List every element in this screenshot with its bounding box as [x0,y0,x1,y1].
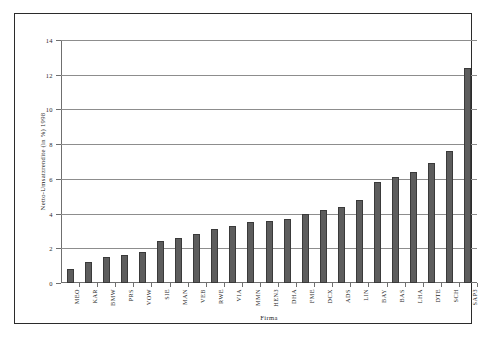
x-tick-mark [350,283,351,287]
chart-frame: Netto-Umsatzrendite (in %) 1998 02468101… [14,13,472,324]
bar [284,219,291,283]
bar [211,229,218,283]
gridline [61,75,477,76]
bar [320,210,327,283]
x-tick-mark [170,283,171,287]
bar [121,255,128,283]
x-tick-label: MAN [181,289,188,305]
x-tick-label: MMN [254,289,261,306]
x-tick-label: VEB [199,289,206,303]
x-tick-label: BAS [398,289,405,303]
y-tick-mark [56,144,61,145]
y-tick-label: 12 [46,71,53,78]
x-tick-mark [314,283,315,287]
plot-area: 02468101214 MEOKARBMWPRSVOWSIEMANVEBRWEV… [61,40,477,283]
bar [103,257,110,283]
bar [266,221,273,283]
y-tick-mark [56,40,61,41]
x-tick-label: KAR [91,289,98,304]
plot-inner: 02468101214 MEOKARBMWPRSVOWSIEMANVEBRWEV… [61,40,477,283]
x-tick-mark [387,283,388,287]
y-tick-label: 6 [49,175,53,182]
gridline [61,109,477,110]
x-tick-label: FME [308,289,315,303]
bar [67,269,74,283]
x-tick-label: DTE [434,289,441,303]
x-tick-label: HEN3 [272,289,279,307]
x-tick-mark [423,283,424,287]
bar [374,182,381,283]
bar [139,252,146,283]
bar [392,177,399,283]
x-tick-mark [405,283,406,287]
x-tick-mark [368,283,369,287]
y-axis-line [61,40,62,283]
x-axis-title: Firma [61,314,477,321]
x-tick-mark [278,283,279,287]
x-tick-mark [79,283,80,287]
y-tick-label: 4 [49,210,53,217]
x-tick-label: VOW [145,289,152,305]
x-tick-label: LIN [362,289,369,301]
x-tick-label: VIA [235,289,242,302]
bar [446,151,453,283]
gridline [61,144,477,145]
bar [464,68,471,283]
bar [247,222,254,283]
bar [85,262,92,283]
x-tick-label: SAP3 [471,289,478,305]
bar [175,238,182,283]
x-tick-mark [224,283,225,287]
y-tick-label: 0 [49,280,53,287]
bar [428,163,435,283]
x-tick-mark [97,283,98,287]
x-tick-label: RWE [217,289,224,304]
y-tick-mark [56,214,61,215]
bar [157,241,164,283]
x-tick-mark [151,283,152,287]
x-tick-label: DHA [290,289,297,304]
bar [229,226,236,283]
chart-figure: Netto-Umsatzrendite (in %) 1998 02468101… [0,0,488,340]
y-tick-label: 14 [46,37,53,44]
y-tick-label: 10 [46,106,53,113]
bar [193,234,200,283]
x-tick-mark [242,283,243,287]
y-tick-mark [56,109,61,110]
x-tick-mark [296,283,297,287]
y-tick-mark [56,75,61,76]
x-tick-label: BAY [380,289,387,303]
x-tick-mark [188,283,189,287]
bar [356,200,363,283]
x-tick-mark [133,283,134,287]
x-tick-mark [441,283,442,287]
bar [338,207,345,283]
x-tick-label: MEO [73,289,80,304]
x-tick-label: SIE [163,289,170,300]
x-tick-mark [206,283,207,287]
bar [302,214,309,283]
y-axis-title-text: Netto-Umsatzrendite (in %) 1998 [40,113,47,211]
y-tick-label: 2 [49,245,53,252]
bar [410,172,417,283]
y-tick-mark [56,248,61,249]
x-tick-mark [477,283,478,287]
y-tick-label: 8 [49,141,53,148]
x-tick-mark [260,283,261,287]
x-tick-label: ADS [344,289,351,303]
y-tick-mark [56,283,61,284]
x-tick-label: LHA [416,289,423,303]
gridline [61,40,477,41]
y-tick-mark [56,179,61,180]
x-tick-label: DCX [326,289,333,304]
x-tick-label: BMW [109,289,116,306]
x-tick-mark [332,283,333,287]
x-tick-label: SCH [452,289,459,303]
x-tick-mark [459,283,460,287]
x-tick-label: PRS [127,289,134,302]
x-tick-mark [115,283,116,287]
